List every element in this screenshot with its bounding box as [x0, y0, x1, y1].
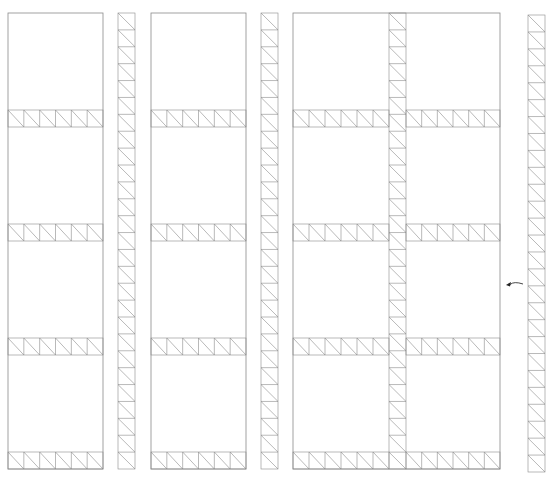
- horizontal-truss-2: [151, 224, 246, 241]
- diagram-svg: [0, 0, 559, 481]
- vertical-truss-2: [261, 13, 278, 469]
- truss-diagram: [0, 0, 559, 481]
- horizontal-truss-4: [406, 452, 500, 469]
- horizontal-truss-2: [293, 224, 389, 241]
- horizontal-truss-1: [151, 110, 246, 127]
- horizontal-truss-1: [406, 110, 500, 127]
- vertical-truss-1: [118, 13, 135, 469]
- horizontal-truss-3: [293, 338, 389, 355]
- horizontal-truss-2: [8, 224, 103, 241]
- horizontal-truss-1: [293, 110, 389, 127]
- horizontal-truss-3: [151, 338, 246, 355]
- horizontal-truss-layer: [8, 110, 500, 469]
- curved-arrow-icon: [506, 282, 523, 287]
- inner-vertical-truss: [389, 13, 406, 469]
- arrow-layer: [506, 282, 523, 287]
- horizontal-truss-2: [406, 224, 500, 241]
- horizontal-truss-4: [293, 452, 389, 469]
- vertical-truss-3: [528, 15, 545, 472]
- horizontal-truss-3: [406, 338, 500, 355]
- horizontal-truss-4: [8, 452, 103, 469]
- vertical-truss-layer: [118, 13, 545, 472]
- horizontal-truss-3: [8, 338, 103, 355]
- horizontal-truss-1: [8, 110, 103, 127]
- horizontal-truss-4: [151, 452, 246, 469]
